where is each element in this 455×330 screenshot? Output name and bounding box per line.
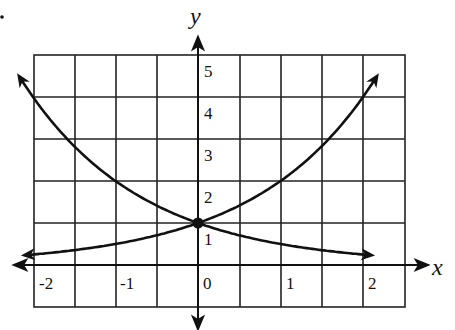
graph: y x -2 -1 0 1 2 1 2 3 4 5 <box>0 0 455 330</box>
axes <box>14 37 428 329</box>
y-tick: 4 <box>204 104 213 123</box>
x-axis-label: x <box>431 254 443 280</box>
y-axis-label: y <box>188 3 201 29</box>
x-tick-labels: -2 -1 0 1 2 <box>39 274 377 293</box>
grid <box>34 55 405 307</box>
y-tick: 3 <box>204 146 213 165</box>
x-tick: 1 <box>286 274 295 293</box>
y-tick: 1 <box>204 230 213 249</box>
y-tick: 5 <box>204 62 213 81</box>
y-tick: 2 <box>204 188 213 207</box>
intersection-point <box>193 218 204 229</box>
x-tick: -2 <box>39 274 53 293</box>
curve-arrowhead-icon <box>366 73 379 88</box>
x-tick: 0 <box>203 274 212 293</box>
x-tick: -1 <box>120 274 134 293</box>
x-tick: 2 <box>368 274 377 293</box>
curve-arrowhead-icon <box>17 73 30 88</box>
curve-half-pow-x <box>21 80 367 255</box>
bullet-dot <box>0 15 4 19</box>
